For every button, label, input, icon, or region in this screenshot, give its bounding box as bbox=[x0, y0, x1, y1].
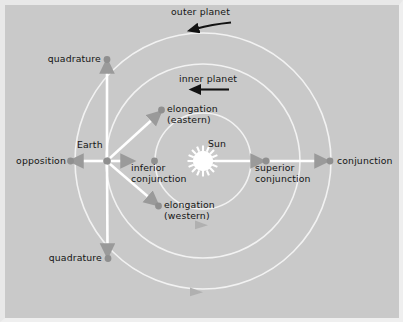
label-elongation-eastern-line1: elongation bbox=[167, 104, 239, 115]
label-superior-conjunction-line1: superior bbox=[255, 163, 330, 174]
label-inner-planet: inner planet bbox=[158, 74, 258, 85]
marker-earth[interactable] bbox=[103, 157, 110, 164]
label-superior-conjunction-line2: conjunction bbox=[255, 174, 330, 185]
label-sun: Sun bbox=[208, 139, 226, 150]
line-earth-to-eastern-elongation bbox=[110, 117, 155, 158]
label-earth: Earth bbox=[77, 140, 103, 151]
label-conjunction: conjunction bbox=[337, 156, 393, 167]
planetary-configurations-diagram: outer planet inner planet quadrature qua… bbox=[0, 0, 403, 322]
label-elongation-western-line1: elongation bbox=[164, 200, 236, 211]
marker-elongation-eastern[interactable] bbox=[158, 107, 165, 114]
label-superior-conjunction: superior conjunction bbox=[255, 163, 330, 184]
label-quadrature-upper: quadrature bbox=[24, 54, 101, 65]
label-opposition: opposition bbox=[0, 156, 66, 167]
outer-planet-motion-arrow bbox=[196, 23, 231, 29]
line-earth-to-lower-quadrature bbox=[107, 165, 108, 249]
label-inferior-conjunction-line2: conjunction bbox=[131, 174, 203, 185]
label-quadrature-lower: quadrature bbox=[25, 253, 102, 264]
marker-quadrature-upper[interactable] bbox=[104, 56, 111, 63]
marker-opposition[interactable] bbox=[67, 158, 74, 165]
marker-quadrature-lower[interactable] bbox=[105, 255, 112, 262]
orbit-direction-arrowheads bbox=[106, 221, 208, 297]
label-elongation-western: elongation (western) bbox=[164, 200, 236, 221]
label-elongation-eastern-line2: (eastern) bbox=[167, 115, 239, 126]
marker-elongation-western[interactable] bbox=[155, 203, 162, 210]
label-inferior-conjunction-line1: inferior bbox=[131, 163, 203, 174]
label-outer-planet: outer planet bbox=[148, 7, 253, 18]
label-elongation-eastern: elongation (eastern) bbox=[167, 104, 239, 125]
inner-orbit-arrowhead bbox=[195, 221, 208, 230]
label-inferior-conjunction: inferior conjunction bbox=[131, 163, 203, 184]
label-elongation-western-line2: (western) bbox=[164, 211, 236, 222]
